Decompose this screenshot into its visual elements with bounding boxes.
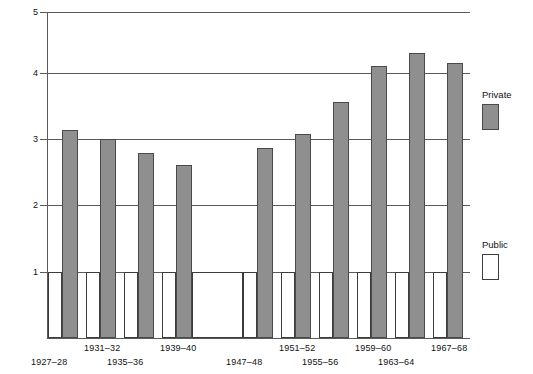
ytick-label-2: 2 bbox=[24, 201, 38, 210]
bar-private-1927-28 bbox=[62, 130, 78, 338]
ytick-label-1: 1 bbox=[24, 268, 38, 277]
xlabel-1931-32: 1931–32 bbox=[84, 343, 120, 353]
bar-public-1931-32 bbox=[86, 272, 100, 338]
xlabel-1967-68: 1967–68 bbox=[431, 343, 467, 353]
bar-private-1947-48 bbox=[257, 148, 273, 338]
legend-label-private: Private bbox=[482, 89, 512, 100]
gridline-5 bbox=[47, 12, 470, 13]
bar-public-1959-60 bbox=[357, 272, 371, 338]
x-axis-line bbox=[47, 338, 470, 339]
bar-public-1927-28 bbox=[48, 272, 62, 338]
gridline-4 bbox=[47, 73, 470, 74]
bar-private-1967-68 bbox=[447, 63, 463, 338]
legend-swatch-public bbox=[482, 254, 499, 280]
xlabel-1947-48: 1947–48 bbox=[226, 357, 262, 367]
ytick-mark-5 bbox=[40, 12, 47, 13]
xlabel-1927-28: 1927–28 bbox=[31, 357, 67, 367]
ytick-mark-3 bbox=[40, 139, 47, 140]
xlabel-1951-52: 1951–52 bbox=[279, 343, 315, 353]
bar-private-1963-64 bbox=[409, 53, 425, 338]
legend-label-public: Public bbox=[482, 239, 508, 250]
bar-public-1947-48 bbox=[243, 272, 257, 338]
xlabel-1935-36: 1935–36 bbox=[107, 357, 143, 367]
bar-private-1935-36 bbox=[138, 153, 154, 338]
bar-public-1963-64 bbox=[395, 272, 409, 338]
bar-private-1959-60 bbox=[371, 66, 387, 338]
bar-public-1951-52 bbox=[281, 272, 295, 338]
xlabel-1939-40: 1939–40 bbox=[160, 343, 196, 353]
legend-item-private: Private bbox=[482, 89, 512, 130]
ytick-mark-1 bbox=[40, 272, 47, 273]
legend-item-public: Public bbox=[482, 239, 508, 280]
ytick-label-5: 5 bbox=[24, 8, 38, 17]
ytick-mark-2 bbox=[40, 205, 47, 206]
bar-chart: 5 4 3 2 1 bbox=[0, 0, 533, 374]
bar-public-1967-68 bbox=[433, 272, 447, 338]
bar-private-1955-56 bbox=[333, 102, 349, 338]
bar-public-1955-56 bbox=[319, 272, 333, 338]
ytick-label-4: 4 bbox=[24, 69, 38, 78]
xlabel-1963-64: 1963–64 bbox=[378, 357, 414, 367]
bar-public-war-interval bbox=[192, 272, 243, 338]
xlabel-1959-60: 1959–60 bbox=[355, 343, 391, 353]
legend-swatch-private bbox=[482, 104, 499, 130]
bar-private-1951-52 bbox=[295, 134, 311, 338]
plot-area: 5 4 3 2 1 bbox=[0, 0, 533, 374]
ytick-label-3: 3 bbox=[24, 135, 38, 144]
bar-private-1931-32 bbox=[100, 139, 116, 338]
ytick-mark-4 bbox=[40, 73, 47, 74]
xlabel-1955-56: 1955–56 bbox=[302, 357, 338, 367]
bar-public-1939-40 bbox=[162, 272, 176, 338]
bar-private-1939-40 bbox=[176, 165, 192, 338]
bar-public-1935-36 bbox=[124, 272, 138, 338]
